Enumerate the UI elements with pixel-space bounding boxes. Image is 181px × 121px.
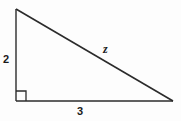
hypotenuse-line — [16, 9, 173, 101]
triangle-drawing — [0, 0, 181, 121]
hypotenuse-label: z — [103, 44, 108, 55]
horizontal-leg-label: 3 — [77, 106, 83, 117]
right-triangle-figure: 2 3 z — [0, 0, 181, 121]
vertical-leg-label: 2 — [3, 54, 9, 65]
right-angle-marker-icon — [16, 91, 26, 101]
